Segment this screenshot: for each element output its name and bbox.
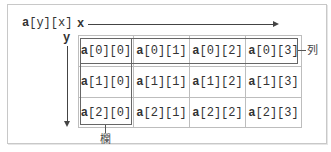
array-cell: a[1][2] — [190, 67, 245, 97]
cell-index: [1][3] — [255, 75, 298, 89]
cell-index: [2][3] — [255, 106, 298, 120]
cell-name: a — [192, 106, 199, 120]
y-axis-arrow-icon — [67, 46, 68, 122]
cell-index: [2][1] — [143, 106, 186, 120]
column-label-leader — [105, 125, 106, 133]
cell-index: [1][1] — [143, 75, 186, 89]
cell-name: a — [136, 106, 143, 120]
array-cell: a[2][3] — [246, 98, 301, 127]
array-cell: a[2][2] — [190, 98, 245, 127]
x-axis-arrow-icon — [88, 24, 274, 25]
cell-index: [2][2] — [199, 106, 242, 120]
array-cell: a[1][1] — [134, 67, 189, 97]
cell-name: a — [192, 75, 199, 89]
array-notation-label: a[y][x] — [22, 17, 72, 29]
y-axis-label: y — [63, 32, 70, 44]
x-axis-label: x — [77, 18, 84, 30]
array-cell: a[1][3] — [246, 67, 301, 97]
row-label-leader — [298, 50, 306, 51]
cell-name: a — [136, 75, 143, 89]
row-label: 列 — [307, 45, 318, 56]
cell-index: [1][2] — [199, 75, 242, 89]
array-index-notation: [y][x] — [29, 16, 72, 30]
column-label: 欄 — [100, 134, 111, 145]
column-highlight-box — [80, 38, 132, 125]
cell-name: a — [248, 75, 255, 89]
array-cell: a[2][1] — [134, 98, 189, 127]
cell-name: a — [248, 106, 255, 120]
